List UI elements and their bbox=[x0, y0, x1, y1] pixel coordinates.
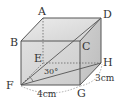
vertex-label-H: H bbox=[103, 56, 113, 69]
vertex-label-B: B bbox=[10, 36, 18, 49]
dimension-label-GH: 3cm bbox=[95, 73, 115, 83]
cuboid-diagram: A B C D E F G H 4cm 3cm 30° bbox=[0, 0, 125, 101]
vertex-label-F: F bbox=[6, 79, 14, 92]
vertex-label-C: C bbox=[82, 40, 90, 53]
vertex-label-E: E bbox=[34, 52, 42, 65]
vertex-label-D: D bbox=[103, 8, 112, 21]
vertex-label-G: G bbox=[77, 87, 86, 100]
vertex-label-A: A bbox=[37, 5, 47, 18]
dimension-label-FG: 4cm bbox=[37, 89, 57, 99]
angle-label: 30° bbox=[44, 67, 58, 76]
